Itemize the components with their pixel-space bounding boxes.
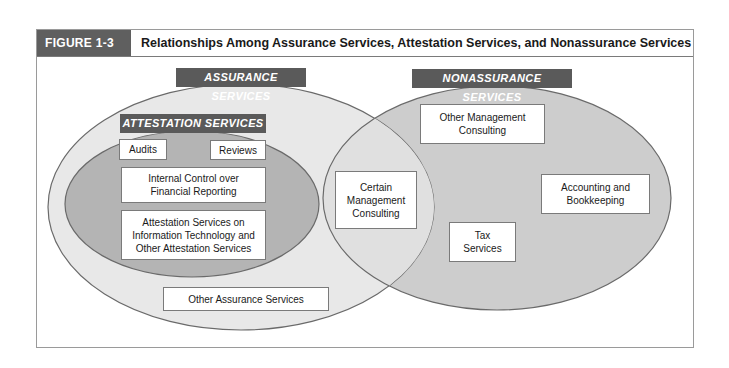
reviews-box: Reviews [210, 140, 266, 160]
attestation-it-box: Attestation Services on Information Tech… [121, 210, 266, 260]
assurance-services-label: ASSURANCE SERVICES [176, 68, 306, 87]
accounting-box: Accounting and Bookkeeping [541, 174, 650, 214]
other-assurance-box: Other Assurance Services [163, 287, 329, 311]
certain-management-box: Certain Management Consulting [335, 171, 417, 229]
internal-control-box: Internal Control over Financial Reportin… [121, 167, 266, 203]
other-management-box: Other Management Consulting [420, 104, 545, 144]
tax-services-box: Tax Services [449, 222, 516, 262]
attestation-services-label: ATTESTATION SERVICES [120, 114, 266, 133]
nonassurance-services-label: NONASSURANCE SERVICES [412, 69, 572, 88]
audits-box: Audits [119, 139, 167, 160]
